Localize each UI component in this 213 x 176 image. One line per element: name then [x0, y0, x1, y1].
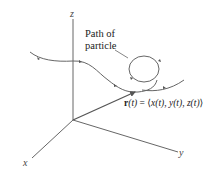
y-axis — [73, 120, 178, 152]
particle-path — [30, 52, 184, 92]
callout-leader-line — [115, 50, 128, 58]
z-component: z(t) — [187, 98, 200, 108]
x-component: x(t) — [151, 98, 164, 108]
direction-arrow-icon — [158, 59, 161, 62]
equals-sign: = — [137, 98, 147, 108]
x-axis-label: x — [23, 157, 27, 168]
callout-line-2: particle — [85, 40, 116, 52]
vector-arg: (t) — [128, 98, 137, 108]
vector-equation-label: r(t) = ⟨x(t), y(t), z(t)⟩ — [124, 98, 203, 109]
diagram-canvas: z x y Path of particle r(t) = ⟨x(t), y(t… — [0, 0, 213, 176]
callout-line-1: Path of — [85, 28, 116, 40]
path-loop — [129, 56, 159, 82]
angle-close: ⟩ — [200, 98, 204, 108]
path-callout: Path of particle — [85, 28, 116, 52]
path-direction-arrows — [37, 57, 166, 89]
y-axis-label: y — [179, 147, 183, 158]
z-axis-label: z — [70, 8, 74, 19]
y-component: y(t) — [169, 98, 182, 108]
x-axis — [32, 120, 73, 158]
